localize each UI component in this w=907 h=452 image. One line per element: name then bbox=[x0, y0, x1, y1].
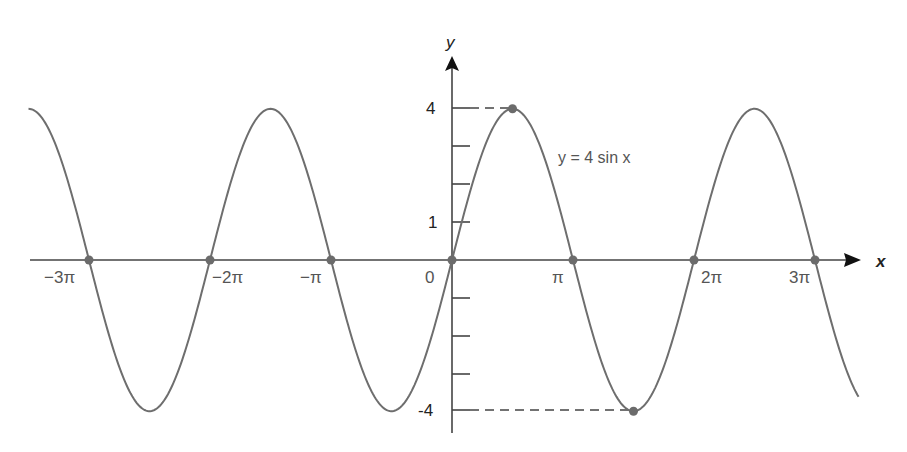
x-tick-label-neg2pi: −2π bbox=[212, 268, 243, 287]
marked-point bbox=[85, 256, 94, 265]
x-tick-label-3pi: 3π bbox=[789, 268, 810, 287]
x-tick-label-pi: π bbox=[552, 268, 564, 287]
marked-point bbox=[629, 407, 638, 416]
marked-point bbox=[448, 256, 457, 265]
marked-point bbox=[206, 256, 215, 265]
y-tick-label-neg4: -4 bbox=[418, 401, 433, 420]
x-axis-label: x bbox=[875, 252, 887, 271]
y-axis-label: y bbox=[445, 33, 456, 52]
marked-point bbox=[569, 256, 578, 265]
marked-point bbox=[690, 256, 699, 265]
curve-equation-label: y = 4 sin x bbox=[558, 149, 630, 166]
y-tick-label-1: 1 bbox=[428, 213, 437, 232]
sine-chart: y x 4 1 -4 −3π −2π −π 0 π 2π 3π y = 4 si… bbox=[0, 0, 907, 452]
x-tick-label-neg3pi: −3π bbox=[44, 268, 75, 287]
x-tick-label-negpi: −π bbox=[300, 268, 322, 287]
y-tick-label-4: 4 bbox=[426, 99, 435, 118]
x-tick-label-2pi: 2π bbox=[701, 268, 722, 287]
x-tick-label-0: 0 bbox=[425, 268, 434, 287]
marked-point bbox=[508, 104, 517, 113]
marked-point bbox=[811, 256, 820, 265]
marked-point bbox=[327, 256, 336, 265]
x-axis-arrow-icon bbox=[844, 253, 861, 267]
